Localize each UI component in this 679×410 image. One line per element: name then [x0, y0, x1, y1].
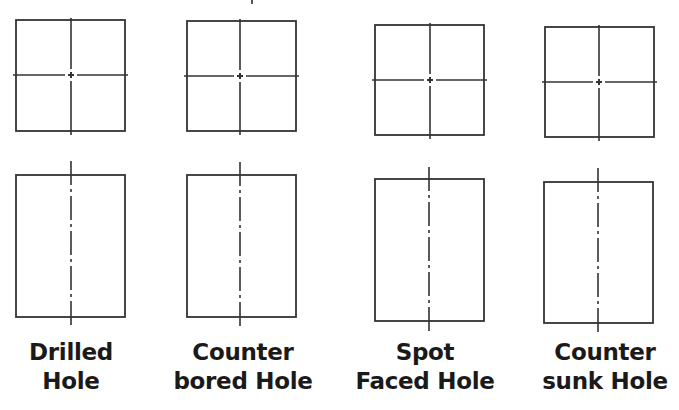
- label-line-1: Counter: [158, 338, 328, 367]
- label-countersunk-hole: Counter sunk Hole: [520, 338, 679, 396]
- label-line-2: bored Hole: [158, 367, 328, 396]
- label-line-1: Drilled: [0, 338, 156, 367]
- label-spotfaced-hole: Spot Faced Hole: [340, 338, 510, 396]
- label-counterbored-hole: Counter bored Hole: [158, 338, 328, 396]
- label-line-2: Hole: [0, 367, 156, 396]
- label-line-1: Spot: [340, 338, 510, 367]
- label-line-2: Faced Hole: [340, 367, 510, 396]
- label-drilled-hole: Drilled Hole: [0, 338, 156, 396]
- counterbored-front-view-outline: [187, 175, 296, 317]
- clipped-title-fragment: [251, 0, 253, 4]
- label-line-2: sunk Hole: [520, 367, 679, 396]
- label-line-1: Counter: [520, 338, 679, 367]
